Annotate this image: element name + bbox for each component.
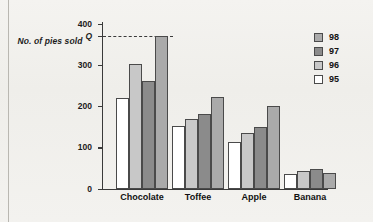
y-tick-q: Q <box>98 36 102 37</box>
bar-chocolate-95 <box>116 98 129 189</box>
bar-banana-96 <box>297 171 310 189</box>
x-axis-label-banana: Banana <box>270 192 350 202</box>
legend-swatch-97 <box>314 47 323 56</box>
y-tick-label-200: 200 <box>78 101 92 111</box>
y-tick-label-300: 300 <box>78 60 92 70</box>
bar-toffee-95 <box>172 126 185 189</box>
bar-apple-98 <box>267 106 280 189</box>
legend-label-97: 97 <box>329 46 339 56</box>
bar-group-chocolate <box>116 24 168 189</box>
legend-item-97[interactable]: 97 <box>314 44 364 58</box>
legend-swatch-98 <box>314 33 323 42</box>
bar-chocolate-97 <box>142 81 155 188</box>
legend-label-95: 95 <box>329 74 339 84</box>
y-tick-label-400: 400 <box>78 19 92 29</box>
bar-banana-95 <box>284 174 297 189</box>
legend-item-98[interactable]: 98 <box>314 30 364 44</box>
bar-group-apple <box>228 24 280 189</box>
bar-banana-98 <box>323 173 336 189</box>
plot-area: 0100200300400 Q ChocolateToffeeAppleBana… <box>102 22 328 190</box>
y-tick-100: 100 <box>98 147 102 148</box>
y-axis-title: No. of pies sold <box>14 36 86 47</box>
legend-label-96: 96 <box>329 60 339 70</box>
q-annotation-label: Q <box>85 31 92 41</box>
bar-apple-97 <box>254 127 267 189</box>
chart-legend: 98979695 <box>314 30 364 86</box>
bar-chocolate-98 <box>155 36 168 189</box>
bar-apple-96 <box>241 133 254 188</box>
bar-group-toffee <box>172 24 224 189</box>
bar-toffee-96 <box>185 119 198 188</box>
y-tick-200: 200 <box>98 106 102 107</box>
legend-swatch-95 <box>314 75 323 84</box>
y-tick-label-100: 100 <box>78 142 92 152</box>
legend-item-96[interactable]: 96 <box>314 58 364 72</box>
bar-apple-95 <box>228 142 241 189</box>
y-axis-line <box>102 22 103 190</box>
y-tick-label-0: 0 <box>87 184 92 194</box>
page-gutter-rule <box>8 0 9 222</box>
bar-banana-97 <box>310 169 323 189</box>
y-tick-300: 300 <box>98 65 102 66</box>
chart-figure: No. of pies sold 0100200300400 Q Chocola… <box>0 0 373 222</box>
y-tick-400: 400 <box>98 24 102 25</box>
x-axis-line <box>102 189 328 190</box>
legend-item-95[interactable]: 95 <box>314 72 364 86</box>
legend-label-98: 98 <box>329 32 339 42</box>
legend-swatch-96 <box>314 61 323 70</box>
bar-toffee-97 <box>198 114 211 188</box>
y-tick-0: 0 <box>98 189 102 190</box>
bar-toffee-98 <box>211 97 224 189</box>
bar-chocolate-96 <box>129 64 142 189</box>
